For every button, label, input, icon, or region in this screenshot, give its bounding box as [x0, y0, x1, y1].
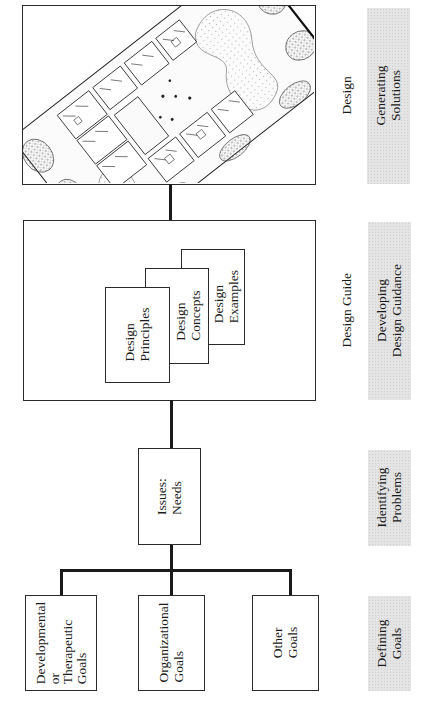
design-caption: Design — [332, 60, 362, 130]
connector-guide-to-design — [169, 184, 172, 221]
connector-goals-bar — [60, 569, 291, 572]
card-design-examples-label: Design Examples — [208, 249, 245, 345]
issues-needs-label: Issues: Needs — [138, 448, 201, 545]
connector-goal-3 — [289, 569, 292, 596]
connector-issues-stem — [170, 545, 173, 571]
isometric-site-plan-illustration — [23, 6, 314, 183]
connector-issues-to-guide — [170, 400, 173, 449]
stage-label-generating-solutions: Generating Solutions — [367, 8, 410, 184]
stage-label-developing-design-guidance: Developing Design Guidance — [368, 222, 411, 400]
connector-goal-2 — [170, 569, 173, 596]
goal-label-other: Other Goals — [252, 595, 319, 691]
goal-label-organizational: Organizational Goals — [138, 595, 205, 691]
goal-label-developmental: Developmental or Therapeutic Goals — [25, 595, 97, 691]
card-design-principles-label: Design Principles — [105, 287, 170, 383]
design-guide-caption: Design Guide — [332, 260, 362, 360]
stage-label-defining-goals: Defining Goals — [368, 596, 411, 691]
stage-label-identifying-problems: Identifying Problems — [368, 450, 411, 546]
connector-goal-1 — [60, 569, 63, 596]
card-design-concepts-label: Design Concepts — [168, 268, 208, 364]
design-illustration-frame — [22, 5, 316, 185]
